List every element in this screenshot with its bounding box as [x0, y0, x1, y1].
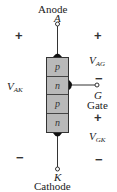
vag-label: VAG	[89, 55, 105, 70]
vak-main: V	[7, 80, 14, 92]
vak-plus: +	[15, 29, 23, 42]
cathode-label: Cathode	[34, 181, 71, 192]
layer-n2: n	[47, 114, 68, 133]
vak-sub: AK	[14, 86, 23, 94]
anode-symbol: A	[54, 13, 61, 24]
layer-n1: n	[47, 77, 68, 96]
layer-p1: p	[47, 58, 68, 77]
vak-label: VAK	[7, 81, 23, 96]
vgk-sub: GK	[96, 136, 106, 144]
vgk-label: VGK	[89, 131, 105, 146]
vag-plus: +	[94, 29, 102, 42]
vgk-plus: +	[94, 111, 102, 124]
scr-block: p n p n	[46, 57, 69, 133]
anode-label: Anode	[38, 4, 67, 15]
vag-main: V	[89, 54, 96, 66]
vgk-minus: −	[95, 153, 103, 166]
vgk-main: V	[89, 130, 96, 142]
vak-minus: −	[16, 151, 24, 164]
vag-sub: AG	[96, 60, 105, 68]
vag-minus: −	[95, 72, 103, 85]
layer-p2: p	[47, 95, 68, 114]
